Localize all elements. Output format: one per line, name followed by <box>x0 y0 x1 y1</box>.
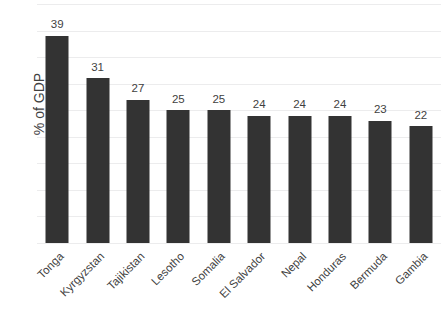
bar[interactable] <box>167 110 190 243</box>
x-axis-label-slot: Gambia <box>401 243 441 321</box>
bar-value-label: 23 <box>374 104 387 116</box>
bar[interactable] <box>46 36 69 243</box>
bar-slot: 24 <box>279 4 319 243</box>
bar[interactable] <box>409 126 432 243</box>
x-axis-labels: TongaKyrgyzstanTajikistanLesothoSomaliaE… <box>37 243 441 321</box>
bar-slot: 23 <box>360 4 400 243</box>
bar-value-label: 25 <box>212 94 225 106</box>
y-axis-title: % of GDP <box>31 59 47 149</box>
bar-value-label: 24 <box>253 99 266 111</box>
bar[interactable] <box>288 116 311 243</box>
x-axis-label: Nepal <box>278 250 308 280</box>
bar-slot: 24 <box>239 4 279 243</box>
bar-slot: 31 <box>77 4 117 243</box>
bars-layer: 39312725252424242322 <box>37 4 441 243</box>
x-axis-label-slot: Bermuda <box>360 243 400 321</box>
bar-slot: 25 <box>199 4 239 243</box>
bar-slot: 25 <box>158 4 198 243</box>
bar-slot: 22 <box>401 4 441 243</box>
bar-value-label: 24 <box>293 99 306 111</box>
bar-value-label: 25 <box>172 94 185 106</box>
bar-value-label: 39 <box>51 19 64 31</box>
bar[interactable] <box>126 100 149 243</box>
bar-slot: 27 <box>118 4 158 243</box>
bar-value-label: 22 <box>414 110 427 122</box>
bar[interactable] <box>207 110 230 243</box>
bar[interactable] <box>328 116 351 243</box>
x-axis-label: Tonga <box>35 250 66 281</box>
x-axis-label-slot: El Salvador <box>239 243 279 321</box>
bar-chart: 39312725252424242322 % of GDP TongaKyrgy… <box>0 0 446 321</box>
bar-value-label: 27 <box>132 83 145 95</box>
bar-value-label: 31 <box>91 62 104 74</box>
bar[interactable] <box>248 116 271 243</box>
bar[interactable] <box>86 78 109 243</box>
bar[interactable] <box>369 121 392 243</box>
bar-slot: 24 <box>320 4 360 243</box>
bar-value-label: 24 <box>334 99 347 111</box>
